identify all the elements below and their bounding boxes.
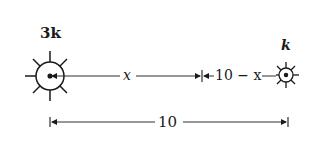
right-source-label: k: [281, 37, 291, 53]
left-source-label: 3k: [40, 24, 61, 42]
sun-icon-small: [276, 62, 299, 88]
total-distance-label: 10: [158, 113, 177, 131]
diagram-canvas: 3k x 10 − x k 10: [0, 0, 314, 145]
segment-x-label: x: [123, 67, 131, 83]
segment-10-minus-x-label: 10 − x: [215, 67, 261, 83]
